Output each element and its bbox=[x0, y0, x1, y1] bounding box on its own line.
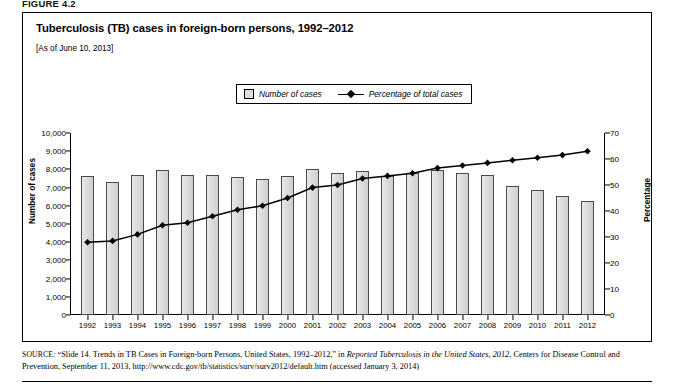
tick-mark bbox=[187, 315, 188, 320]
x-axis-tick-label: 1993 bbox=[104, 321, 121, 330]
tick-mark bbox=[137, 315, 138, 320]
tick-mark bbox=[66, 296, 71, 297]
y-axis-left-tick-label: 2,000 bbox=[46, 274, 66, 283]
line-data-point bbox=[359, 175, 366, 182]
figure-subtitle: [As of June 10, 2013] bbox=[36, 44, 113, 53]
y-axis-left-tick-label: 8,000 bbox=[46, 165, 66, 174]
y-axis-right-tick-label: 40 bbox=[610, 207, 619, 216]
x-axis-tick-label: 2005 bbox=[404, 321, 421, 330]
tick-mark bbox=[66, 314, 71, 315]
tick-mark bbox=[66, 242, 71, 243]
x-axis-tick-label: 2009 bbox=[504, 321, 521, 330]
tick-mark bbox=[66, 278, 71, 279]
tick-mark bbox=[237, 315, 238, 320]
source-citation: SOURCE: “Slide 14. Trends in TB Cases in… bbox=[22, 349, 652, 372]
tick-mark bbox=[437, 315, 438, 320]
x-axis-tick-label: 1997 bbox=[204, 321, 221, 330]
tick-mark bbox=[287, 315, 288, 320]
source-italic-1: Reported Tuberculosis in the United Stat… bbox=[347, 350, 510, 359]
y-axis-left-tick-label: 4,000 bbox=[46, 238, 66, 247]
tick-mark bbox=[537, 315, 538, 320]
x-axis-tick-label: 1998 bbox=[229, 321, 246, 330]
tick-mark bbox=[212, 315, 213, 320]
tick-mark bbox=[112, 315, 113, 320]
tick-mark bbox=[262, 315, 263, 320]
tick-mark bbox=[487, 315, 488, 320]
x-axis-tick-label: 2006 bbox=[429, 321, 446, 330]
line-data-point bbox=[159, 222, 166, 229]
tick-mark bbox=[312, 315, 313, 320]
legend-label-line: Percentage of total cases bbox=[369, 89, 463, 99]
tick-mark bbox=[605, 262, 610, 263]
line-data-point bbox=[209, 213, 216, 220]
x-axis-tick-label: 1999 bbox=[254, 321, 271, 330]
y-axis-left-tick-label: 6,000 bbox=[46, 201, 66, 210]
tick-mark bbox=[605, 288, 610, 289]
tick-mark bbox=[66, 260, 71, 261]
line-data-point bbox=[459, 162, 466, 169]
y-axis-left-tick-label: 7,000 bbox=[46, 183, 66, 192]
line-data-point bbox=[384, 173, 391, 180]
y-axis-right-tick-label: 0 bbox=[610, 311, 615, 320]
tick-mark bbox=[605, 314, 610, 315]
tick-mark bbox=[587, 315, 588, 320]
x-axis-tick-label: 1992 bbox=[79, 321, 96, 330]
x-axis-tick-label: 2002 bbox=[329, 321, 346, 330]
line-data-point bbox=[584, 148, 591, 155]
x-axis-tick-label: 2003 bbox=[354, 321, 371, 330]
y-axis-left-tick-label: 1,000 bbox=[46, 292, 66, 301]
y-axis-right-tick-label: 60 bbox=[610, 155, 619, 164]
plot-area: 10,0009,0008,0007,0006,0005,0004,0003,00… bbox=[70, 133, 605, 315]
x-axis-tick-label: 2012 bbox=[579, 321, 596, 330]
legend-item-line: Percentage of total cases bbox=[338, 89, 463, 99]
x-axis-tick-label: 2000 bbox=[279, 321, 296, 330]
tick-mark bbox=[605, 132, 610, 133]
tick-mark bbox=[66, 132, 71, 133]
tick-mark bbox=[605, 210, 610, 211]
x-axis-tick-label: 2010 bbox=[529, 321, 546, 330]
line-data-point bbox=[234, 206, 241, 213]
x-axis-tick-label: 2008 bbox=[479, 321, 496, 330]
y-axis-right-tick-label: 30 bbox=[610, 233, 619, 242]
legend-label-bars: Number of cases bbox=[259, 89, 322, 99]
y-axis-right-tick-label: 70 bbox=[610, 129, 619, 138]
line-data-point bbox=[184, 219, 191, 226]
x-axis-tick-label: 2007 bbox=[454, 321, 471, 330]
tick-mark bbox=[512, 315, 513, 320]
source-text-1: “Slide 14. Trends in TB Cases in Foreign… bbox=[55, 350, 346, 359]
line-data-point bbox=[134, 231, 141, 238]
line-data-point bbox=[284, 195, 291, 202]
source-prefix: SOURCE: bbox=[22, 350, 55, 359]
x-axis-tick-label: 2004 bbox=[379, 321, 396, 330]
y-axis-title-right: Percentage bbox=[643, 178, 652, 222]
line-data-point bbox=[484, 160, 491, 167]
bottom-rule bbox=[22, 381, 652, 382]
x-axis-tick-label: 1996 bbox=[179, 321, 196, 330]
tick-mark bbox=[605, 236, 610, 237]
legend-item-bars: Number of cases bbox=[244, 89, 322, 99]
line-data-point bbox=[309, 184, 316, 191]
y-axis-right-tick-label: 50 bbox=[610, 181, 619, 190]
tick-mark bbox=[66, 223, 71, 224]
y-axis-left-tick-label: 5,000 bbox=[46, 220, 66, 229]
figure-label: FIGURE 4.2 bbox=[22, 0, 76, 9]
line-data-point bbox=[109, 238, 116, 245]
tick-mark bbox=[162, 315, 163, 320]
y-axis-left-tick-label: 10,000 bbox=[41, 129, 66, 138]
line-data-point bbox=[409, 170, 416, 177]
percentage-line-series bbox=[70, 133, 605, 315]
square-swatch-icon bbox=[244, 89, 254, 99]
tick-mark bbox=[387, 315, 388, 320]
y-axis-right-tick-label: 20 bbox=[610, 259, 619, 268]
y-axis-left-tick-label: 9,000 bbox=[46, 147, 66, 156]
line-data-point bbox=[534, 154, 541, 161]
tick-mark bbox=[66, 187, 71, 188]
tick-mark bbox=[66, 169, 71, 170]
tick-mark bbox=[87, 315, 88, 320]
y-axis-title-left: Number of cases bbox=[28, 158, 37, 224]
x-axis-tick-label: 1994 bbox=[129, 321, 146, 330]
tick-mark bbox=[66, 151, 71, 152]
figure-page: FIGURE 4.2 Tuberculosis (TB) cases in fo… bbox=[0, 0, 674, 390]
line-data-point bbox=[509, 157, 516, 164]
y-axis-right-tick-label: 10 bbox=[610, 285, 619, 294]
